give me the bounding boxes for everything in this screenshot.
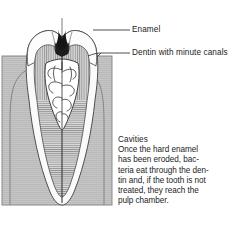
label-enamel: Enamel [132, 25, 160, 34]
caption-title: Cavities [118, 135, 236, 145]
caption-line: has been eroded, bac- [118, 155, 236, 165]
caption-line: Once the hard enamel [118, 145, 236, 155]
caption-body: Once the hard enamel has been eroded, ba… [118, 145, 236, 206]
label-dentin: Dentin with minute canals [132, 48, 228, 57]
caption-line: teria eat through the den- [118, 166, 236, 176]
caption-line: pulp chamber. [118, 196, 236, 206]
caption-block: Cavities Once the hard enamel has been e… [118, 135, 236, 206]
caption-line: treated, they reach the [118, 186, 236, 196]
caption-line: tin and, if the tooth is not [118, 176, 236, 186]
